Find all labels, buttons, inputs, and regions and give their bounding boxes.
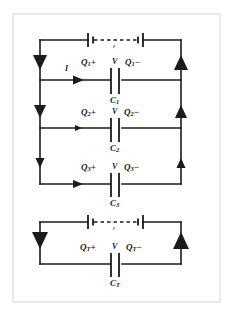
arrow-down-1 (33, 55, 47, 70)
arrow-up-3 (177, 158, 186, 168)
arrow-down-2 (34, 105, 46, 118)
arrow-down-3 (36, 158, 45, 168)
capacitor-label-c3: C3 (110, 198, 119, 208)
voltage-label-c2: V (112, 107, 117, 116)
voltage-label-c1: V (112, 57, 117, 66)
emf-label-top: ε (113, 43, 115, 49)
charge-label-q1-positive: Q1+ (81, 57, 96, 67)
emf-source-top (88, 33, 143, 47)
charge-label-q2-negative: Q2− (124, 107, 139, 117)
arrow-down-equivalent (32, 232, 48, 249)
arrow-right-branch3 (73, 180, 83, 188)
current-label: I (65, 64, 68, 73)
capacitor-label-c2: C2 (110, 143, 119, 153)
charge-label-q3-negative: Q3− (124, 162, 139, 172)
arrow-right-branch2 (75, 125, 82, 131)
capacitor-label-ct: CT (110, 278, 120, 288)
charge-label-qt-positive: QT+ (80, 242, 96, 252)
charge-label-q2-positive: Q2+ (81, 107, 96, 117)
charge-label-q1-negative: Q1− (125, 57, 140, 67)
arrow-up-equivalent (173, 232, 189, 249)
voltage-label-ct: V (112, 242, 117, 251)
emf-source-bottom (88, 215, 143, 229)
charge-label-qt-negative: QT− (126, 242, 142, 252)
arrow-right-branch1 (73, 76, 84, 85)
emf-label-bottom: ε (113, 225, 115, 231)
voltage-label-c3: V (112, 162, 117, 171)
capacitor-label-c1: C1 (110, 95, 119, 105)
arrow-up-2 (175, 105, 187, 118)
charge-label-q3-positive: Q3+ (81, 162, 96, 172)
arrow-up-1 (174, 55, 188, 70)
